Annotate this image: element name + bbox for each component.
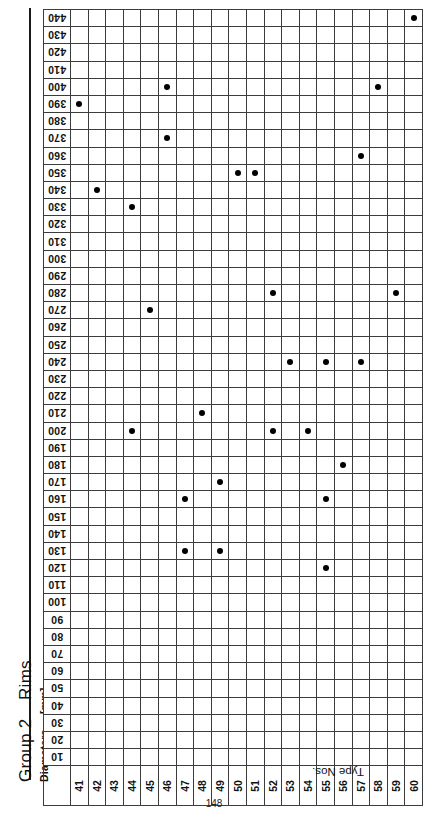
grid-cell bbox=[282, 525, 300, 542]
grid-cell bbox=[123, 731, 141, 748]
grid-cell bbox=[334, 594, 352, 611]
grid-cell bbox=[317, 508, 335, 525]
grid-cell bbox=[387, 164, 405, 181]
grid-row: 90 bbox=[44, 611, 423, 628]
grid-cell bbox=[176, 78, 194, 95]
y-tick-label: 220 bbox=[44, 388, 71, 405]
x-tick-value: 49 bbox=[215, 780, 226, 792]
grid-cell bbox=[352, 319, 370, 336]
grid-cell bbox=[246, 285, 264, 302]
grid-cell bbox=[370, 439, 388, 456]
grid-cell bbox=[176, 456, 194, 473]
grid-cell bbox=[370, 405, 388, 422]
grid-cell bbox=[405, 267, 423, 284]
grid-cell bbox=[211, 628, 229, 645]
grid-cell bbox=[387, 147, 405, 164]
data-point bbox=[305, 428, 311, 434]
grid-cell bbox=[211, 439, 229, 456]
grid-cell bbox=[158, 147, 176, 164]
grid-cell bbox=[299, 302, 317, 319]
grid-cell bbox=[176, 628, 194, 645]
grid-cell bbox=[123, 233, 141, 250]
grid-cell bbox=[370, 697, 388, 714]
y-tick-label: 150 bbox=[44, 508, 71, 525]
grid-cell bbox=[141, 560, 159, 577]
grid-cell bbox=[88, 181, 106, 198]
grid-cell bbox=[71, 78, 89, 95]
grid-cell bbox=[352, 525, 370, 542]
grid-cell bbox=[334, 697, 352, 714]
grid-cell bbox=[71, 577, 89, 594]
grid-cell bbox=[282, 95, 300, 112]
grid-cell bbox=[246, 267, 264, 284]
chart-page: Group 2 Rims Diameters [mm] 440430420410… bbox=[0, 0, 428, 829]
grid-cell bbox=[264, 216, 282, 233]
grid-cell bbox=[264, 525, 282, 542]
grid-cell bbox=[370, 560, 388, 577]
grid-cell bbox=[405, 731, 423, 748]
grid-cell bbox=[370, 233, 388, 250]
grid-cell bbox=[299, 181, 317, 198]
grid-cell bbox=[317, 405, 335, 422]
grid-cell bbox=[176, 439, 194, 456]
grid-row: 200 bbox=[44, 422, 423, 439]
data-point bbox=[129, 428, 135, 434]
grid-cell bbox=[158, 302, 176, 319]
grid-cell bbox=[405, 216, 423, 233]
grid-cell bbox=[317, 731, 335, 748]
grid-cell bbox=[405, 78, 423, 95]
grid-cell bbox=[229, 336, 247, 353]
grid-cell bbox=[229, 267, 247, 284]
grid-cell bbox=[176, 285, 194, 302]
grid-cell bbox=[387, 336, 405, 353]
grid-row: 290 bbox=[44, 267, 423, 284]
y-tick-label: 90 bbox=[44, 611, 71, 628]
grid-cell bbox=[211, 353, 229, 370]
grid-cell bbox=[141, 456, 159, 473]
grid-cell bbox=[211, 27, 229, 44]
grid-cell bbox=[352, 697, 370, 714]
grid-cell bbox=[229, 645, 247, 662]
category-title: Rims bbox=[16, 660, 36, 700]
y-tick-label: 290 bbox=[44, 267, 71, 284]
grid-cell bbox=[299, 628, 317, 645]
grid-cell bbox=[246, 250, 264, 267]
grid-cell bbox=[299, 422, 317, 439]
y-tick-value: 160 bbox=[48, 494, 66, 505]
grid-cell bbox=[194, 663, 212, 680]
grid-cell bbox=[211, 285, 229, 302]
grid-cell bbox=[264, 164, 282, 181]
grid-cell bbox=[71, 95, 89, 112]
data-point bbox=[340, 462, 346, 468]
grid-cell bbox=[123, 714, 141, 731]
grid-cell bbox=[334, 130, 352, 147]
grid-cell bbox=[299, 199, 317, 216]
grid-cell bbox=[246, 130, 264, 147]
grid-cell bbox=[71, 267, 89, 284]
grid-cell bbox=[141, 628, 159, 645]
grid-cell bbox=[246, 439, 264, 456]
grid-cell bbox=[211, 199, 229, 216]
grid-cell bbox=[387, 491, 405, 508]
grid-cell bbox=[405, 336, 423, 353]
grid-cell bbox=[334, 95, 352, 112]
grid-cell bbox=[158, 181, 176, 198]
page-number: 148 bbox=[0, 798, 428, 809]
grid-cell bbox=[334, 456, 352, 473]
grid-row: 210 bbox=[44, 405, 423, 422]
grid-cell bbox=[229, 697, 247, 714]
y-tick-label: 190 bbox=[44, 439, 71, 456]
y-tick-value: 140 bbox=[48, 528, 66, 539]
grid-cell bbox=[317, 78, 335, 95]
y-tick-label: 330 bbox=[44, 199, 71, 216]
grid-cell bbox=[282, 130, 300, 147]
y-tick-value: 180 bbox=[48, 460, 66, 471]
grid-cell bbox=[71, 147, 89, 164]
grid-cell bbox=[370, 216, 388, 233]
grid-cell bbox=[405, 353, 423, 370]
grid-cell bbox=[282, 577, 300, 594]
grid-cell bbox=[317, 181, 335, 198]
grid-cell bbox=[123, 439, 141, 456]
grid-cell bbox=[370, 44, 388, 61]
grid-cell bbox=[317, 353, 335, 370]
